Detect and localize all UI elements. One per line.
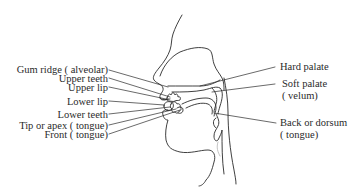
- label-soft-palate: Soft palate: [282, 78, 327, 89]
- label-back-dorsum: Back or dorsum: [280, 117, 347, 128]
- vocal-tract-diagram: Gum ridge ( alveolar) Upper teeth Upper …: [0, 0, 354, 194]
- pharynx-front-wall: [214, 114, 224, 174]
- pharynx-back-wall: [224, 78, 236, 184]
- label-soft-palate-sub: ( velum): [282, 90, 318, 101]
- label-back-dorsum-sub: ( tongue): [280, 129, 318, 140]
- upper-teeth-glyph: [167, 93, 181, 102]
- epiglottis-outline: [213, 118, 216, 128]
- tongue-inner: [186, 103, 212, 114]
- chin-outline: [163, 110, 215, 186]
- label-upper-lip: Upper lip: [68, 82, 108, 93]
- right-leader-lines: [200, 67, 276, 123]
- larynx-outline: [217, 142, 220, 156]
- label-front-tongue: Front ( tongue): [44, 129, 108, 140]
- label-lower-lip: Lower lip: [67, 96, 108, 107]
- label-hard-palate: Hard palate: [280, 61, 329, 72]
- label-lower-teeth: Lower teeth: [58, 109, 108, 120]
- nasal-cavity-outline: [160, 48, 224, 90]
